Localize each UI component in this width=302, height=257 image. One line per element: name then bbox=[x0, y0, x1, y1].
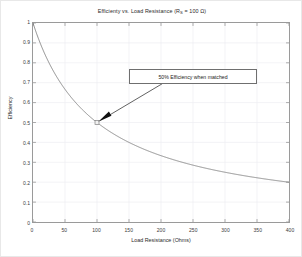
chart-title-tail: = 100 Ω) bbox=[183, 8, 206, 14]
x-axis-label: Load Resistance (Ohms) bbox=[32, 237, 290, 243]
annotation-text: 50% Efficiency when matched bbox=[158, 74, 227, 80]
x-tick-label: 150 bbox=[114, 227, 144, 233]
annotation-textbox: 50% Efficiency when matched bbox=[129, 69, 257, 84]
y-tick-label: 0.1 bbox=[4, 200, 30, 206]
y-axis-ticks: 00.10.20.30.40.50.60.70.80.91 bbox=[1, 22, 30, 223]
y-tick-label: 0 bbox=[4, 220, 30, 226]
y-tick-label: 0.3 bbox=[4, 160, 30, 166]
chart-title: Efficienty vs. Load Resistance (RS = 100… bbox=[1, 8, 302, 15]
y-tick-label: 0.9 bbox=[4, 39, 30, 45]
x-tick-label: 300 bbox=[211, 227, 241, 233]
x-tick-label: 0 bbox=[17, 227, 47, 233]
annotation-arrow bbox=[33, 23, 289, 222]
y-tick-label: 1 bbox=[4, 19, 30, 25]
x-tick-label: 400 bbox=[275, 227, 302, 233]
x-tick-label: 200 bbox=[146, 227, 176, 233]
y-tick-label: 0.2 bbox=[4, 180, 30, 186]
y-tick-label: 0.4 bbox=[4, 140, 30, 146]
x-tick-label: 250 bbox=[178, 227, 208, 233]
chart-title-main: Efficienty vs. Load Resistance (R bbox=[98, 8, 180, 14]
y-tick-label: 0.8 bbox=[4, 59, 30, 65]
chart-figure: Efficienty vs. Load Resistance (RS = 100… bbox=[0, 0, 302, 257]
plot-area bbox=[32, 22, 290, 223]
x-tick-label: 100 bbox=[82, 227, 112, 233]
x-tick-label: 350 bbox=[243, 227, 273, 233]
y-axis-label: Efficiency bbox=[7, 85, 13, 131]
x-tick-label: 50 bbox=[49, 227, 79, 233]
x-axis-ticks: 050100150200250300350400 bbox=[32, 227, 290, 236]
